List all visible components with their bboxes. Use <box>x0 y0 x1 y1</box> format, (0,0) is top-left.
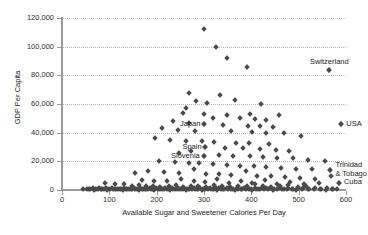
y-axis-tick <box>57 75 62 76</box>
y-axis-tick-label: 20,000 <box>31 157 54 165</box>
x-axis-tick-label: 300 <box>189 196 219 204</box>
gridline <box>62 133 346 134</box>
y-axis-tick-label: 0 <box>50 186 54 194</box>
y-axis-tick <box>57 133 62 134</box>
gridline <box>62 18 346 19</box>
annotation-label: Trinidad & Tobago <box>335 161 367 178</box>
y-axis-tick <box>57 18 62 19</box>
annotation-label: Spain <box>182 143 201 152</box>
gridline <box>62 161 346 162</box>
x-axis-tick-label: 100 <box>94 196 124 204</box>
y-axis-tick <box>57 161 62 162</box>
y-axis-tick-label: 60,000 <box>31 100 54 108</box>
x-axis-tick-label: 200 <box>142 196 172 204</box>
x-axis-tick-label: 500 <box>284 196 314 204</box>
y-axis-tick <box>57 104 62 105</box>
data-point <box>311 187 317 193</box>
y-axis-title: GDP Per Capita <box>13 53 22 143</box>
y-axis-tick-label: 120,000 <box>27 14 54 22</box>
plot-area <box>62 18 346 190</box>
scatter-chart: Available Sugar and Sweetener Calories P… <box>0 0 368 235</box>
x-axis-tick-label: 0 <box>47 196 77 204</box>
x-axis-title: Available Sugar and Sweetener Calories P… <box>62 208 346 217</box>
gridline <box>62 47 346 48</box>
y-axis-tick-label: 100,000 <box>27 43 54 51</box>
x-axis-tick-label: 600 <box>331 196 361 204</box>
y-axis-tick <box>57 47 62 48</box>
gridline <box>62 104 346 105</box>
annotation-label: Japan <box>180 120 200 129</box>
data-point <box>305 187 311 193</box>
annotation-label: USA <box>346 120 361 129</box>
y-axis-tick-label: 40,000 <box>31 129 54 137</box>
annotation-label: Slovenia <box>171 152 200 161</box>
annotation-label: Switzerland <box>310 58 349 67</box>
gridline <box>62 75 346 76</box>
x-axis-tick-label: 400 <box>236 196 266 204</box>
y-axis-tick-label: 80,000 <box>31 71 54 79</box>
annotation-label: Cuba <box>344 178 362 187</box>
